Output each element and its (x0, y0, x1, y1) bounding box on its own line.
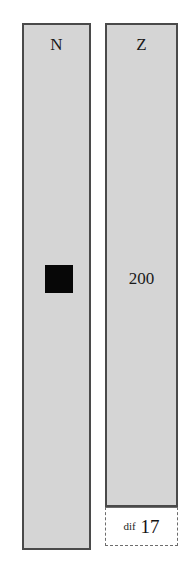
column-n[interactable]: N (22, 23, 91, 550)
diagram-canvas: N Z 200 dif 17 (0, 0, 192, 568)
column-z[interactable]: Z 200 (105, 23, 178, 507)
column-z-value: 200 (107, 270, 176, 287)
difference-box: dif 17 (105, 507, 178, 546)
column-n-label: N (24, 36, 89, 53)
black-square-marker-icon (45, 265, 73, 293)
difference-value: 17 (141, 517, 160, 536)
column-z-label: Z (107, 36, 176, 53)
difference-label: dif (123, 521, 135, 532)
